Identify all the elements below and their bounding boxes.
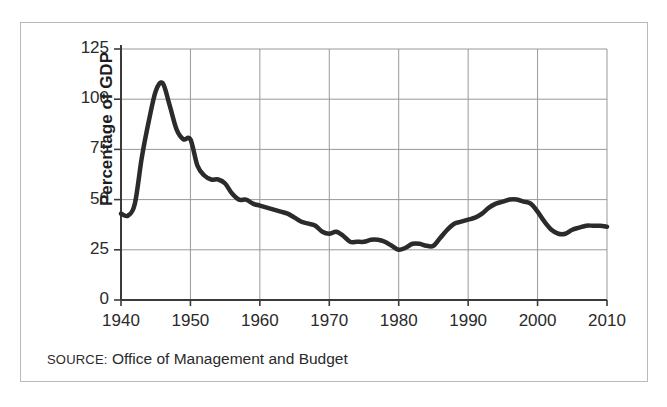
source-note: SOURCE: Office of Management and Budget: [47, 350, 348, 368]
source-label: SOURCE:: [47, 352, 108, 367]
x-tick-label: 1980: [369, 311, 429, 331]
x-tick-label: 2000: [508, 311, 568, 331]
debt-to-gdp-line: [121, 82, 607, 249]
y-tick-label: 100: [63, 88, 109, 108]
axis-lines: [121, 45, 607, 300]
x-tick-label: 1940: [91, 311, 151, 331]
y-tick-label: 75: [63, 138, 109, 158]
source-value: Office of Management and Budget: [108, 350, 348, 367]
y-tick-label: 50: [63, 189, 109, 209]
x-tick-label: 2010: [577, 311, 637, 331]
x-tick-label: 1950: [160, 311, 220, 331]
figure-frame: Percentage of GDP 0255075100125 19401950…: [20, 22, 648, 382]
y-tick-label: 25: [63, 239, 109, 259]
vertical-gridlines: [190, 49, 607, 300]
x-tick-label: 1970: [299, 311, 359, 331]
x-tick-label: 1990: [438, 311, 498, 331]
y-tick-label: 0: [63, 289, 109, 309]
y-tick-label: 125: [63, 38, 109, 58]
chart-plot-area: Percentage of GDP 0255075100125 19401950…: [21, 23, 649, 383]
tick-marks: [114, 49, 607, 306]
x-tick-label: 1960: [230, 311, 290, 331]
